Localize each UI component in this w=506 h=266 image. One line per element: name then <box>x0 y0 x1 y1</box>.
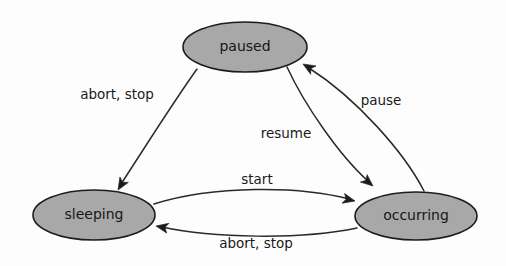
state-node-occurring-label: occurring <box>383 207 449 223</box>
edge-label-pause: pause <box>361 92 402 108</box>
edge-occurring-to-sleeping[interactable]: abort, stop <box>155 221 357 251</box>
edge-path-occurring-to-paused <box>309 68 424 191</box>
edge-occurring-to-paused[interactable]: pause <box>301 59 424 191</box>
state-node-sleeping-label: sleeping <box>65 206 124 222</box>
state-node-sleeping[interactable]: sleeping <box>33 190 155 240</box>
edge-sleeping-to-occurring[interactable]: start <box>154 171 356 206</box>
edge-label-abort-stop-top: abort, stop <box>80 86 154 102</box>
edge-label-resume: resume <box>261 125 312 141</box>
arrowhead-paused-to-sleeping <box>113 177 128 193</box>
edge-paused-to-sleeping[interactable]: abort, stop <box>80 69 197 192</box>
edge-path-paused-to-occurring <box>287 67 368 181</box>
state-node-paused[interactable]: paused <box>183 22 307 72</box>
arrowhead-occurring-to-sleeping <box>155 221 169 233</box>
arrowhead-sleeping-to-occurring <box>342 194 356 207</box>
state-diagram-svg: abort, stop pause resume start abort <box>0 0 506 266</box>
state-diagram-canvas: abort, stop pause resume start abort <box>0 0 506 266</box>
edge-label-start: start <box>241 171 272 187</box>
edge-path-sleeping-to-occurring <box>154 189 349 204</box>
state-node-paused-label: paused <box>219 38 270 54</box>
arrowhead-occurring-to-paused <box>301 59 317 74</box>
state-node-occurring[interactable]: occurring <box>355 192 477 240</box>
edge-label-abort-stop-bottom: abort, stop <box>219 235 293 251</box>
edge-paused-to-occurring[interactable]: resume <box>261 67 376 190</box>
node-group: paused sleeping occurring <box>33 22 477 240</box>
